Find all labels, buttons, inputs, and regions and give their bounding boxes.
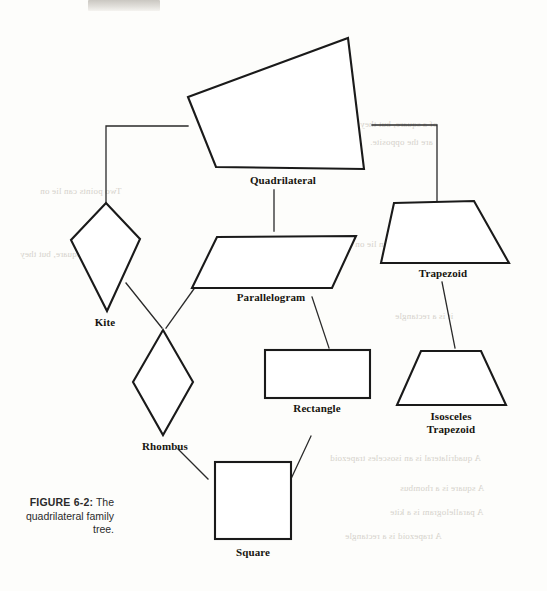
- connector-quadrilateral-kite: [106, 126, 188, 203]
- label-quadrilateral: Quadrilateral: [250, 174, 316, 186]
- connector-quadrilateral-trapezoid: [372, 125, 437, 202]
- label-parallelogram: Parallelogram: [237, 291, 306, 303]
- shape-rectangle: [265, 350, 370, 398]
- shape-trapezoid: [381, 201, 509, 263]
- shape-isosceles-trapezoid: [397, 351, 506, 405]
- label-isosceles-trapezoid-line2: Trapezoid: [427, 423, 475, 436]
- shape-kite: [71, 203, 140, 311]
- label-rectangle: Rectangle: [293, 402, 340, 414]
- figure-page: of a square, but they are the opposite. …: [0, 0, 547, 591]
- connector-kite-rhombus: [126, 283, 162, 328]
- figure-caption-number: FIGURE 6-2:: [30, 496, 93, 508]
- connector-parallelogram-rectangle: [312, 297, 329, 348]
- connector-rectangle-square: [291, 436, 311, 479]
- shape-rhombus: [133, 330, 193, 435]
- label-trapezoid: Trapezoid: [419, 267, 467, 279]
- label-isosceles-trapezoid-line1: Isosceles: [427, 410, 475, 423]
- connector-trapezoid-isosceles-trapezoid: [442, 282, 455, 348]
- connector-parallelogram-rhombus: [166, 286, 196, 328]
- label-square: Square: [236, 546, 270, 558]
- figure-caption: FIGURE 6-2: The quadrilateral family tre…: [6, 496, 114, 537]
- label-isosceles-trapezoid: Isosceles Trapezoid: [427, 410, 475, 436]
- shape-square: [215, 462, 291, 539]
- shape-parallelogram: [192, 236, 356, 288]
- label-rhombus: Rhombus: [142, 440, 188, 452]
- shape-quadrilateral: [188, 38, 364, 169]
- label-kite: Kite: [95, 316, 116, 328]
- connector-rhombus-square: [178, 449, 208, 479]
